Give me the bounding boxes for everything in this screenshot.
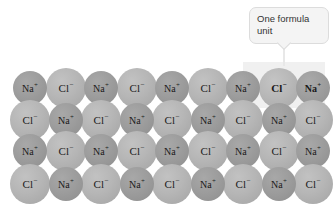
sodium-ion: Na+ [49,167,83,201]
ion-label: Cl− [129,145,144,157]
ion-charge: − [283,80,287,89]
ion-label: Na+ [235,83,251,94]
ion-label: Cl− [200,145,215,157]
ion-label: Cl− [58,145,73,157]
formula-unit-callout: One formula unit [249,7,329,44]
chloride-ion: Cl− [152,164,192,204]
ion-label: Na+ [305,83,322,94]
ion-label: Na+ [164,146,180,157]
callout-label: One formula unit [257,13,309,36]
ion-charge: − [246,112,250,121]
sodium-ion: Na+ [296,134,330,168]
ion-charge: − [211,80,215,89]
ion-charge: − [104,176,108,185]
chloride-ion: Cl− [293,164,333,204]
ion-label: Cl− [129,82,144,94]
ion-label: Na+ [93,83,109,94]
ion-charge: + [34,144,38,151]
ion-charge: + [105,144,109,151]
sodium-ion: Na+ [191,167,225,201]
ion-label: Na+ [271,115,287,126]
chloride-ion: Cl− [117,131,157,171]
ion-label: Na+ [22,146,38,157]
ion-charge: − [140,143,144,152]
ion-charge: + [70,113,74,120]
ion-charge: + [176,81,180,88]
ion-label: Na+ [305,146,321,157]
ion-charge: + [317,144,321,151]
ion-charge: − [33,176,37,185]
ion-label: Na+ [235,146,251,157]
ion-charge: + [34,81,38,88]
ion-label: Cl− [164,178,179,190]
ion-charge: + [247,81,251,88]
ion-charge: + [141,113,145,120]
ion-charge: + [317,81,321,88]
ion-label: Na+ [58,179,74,190]
chloride-ion: Cl− [188,131,228,171]
ion-label: Na+ [164,83,180,94]
ion-label: Cl− [93,178,108,190]
ion-charge: + [105,81,109,88]
ion-label: Na+ [129,115,145,126]
ion-charge: − [246,176,250,185]
ion-charge: − [104,112,108,121]
ion-label: Cl− [22,178,37,190]
ion-charge: − [282,143,286,152]
ion-label: Cl− [271,82,287,94]
ion-label: Na+ [200,115,216,126]
chloride-ion: Cl− [259,68,299,108]
ion-label: Cl− [305,178,320,190]
sodium-ion: Na+ [262,167,296,201]
ion-charge: + [247,144,251,151]
ion-label: Na+ [22,83,38,94]
ion-label: Cl− [93,114,108,126]
ion-charge: − [33,112,37,121]
ion-label: Cl− [235,114,250,126]
chloride-ion: Cl− [188,68,228,108]
ion-charge: + [141,177,145,184]
ion-label: Cl− [164,114,179,126]
ion-charge: − [69,80,73,89]
ion-label: Na+ [271,179,287,190]
sodium-ion: Na+ [155,134,189,168]
ion-label: Cl− [22,114,37,126]
ion-charge: − [211,143,215,152]
sodium-ion: Na+ [13,134,47,168]
ion-charge: + [212,113,216,120]
sodium-ion: Na+ [120,167,154,201]
ion-charge: − [140,80,144,89]
ion-label: Na+ [200,179,216,190]
ion-label: Cl− [305,114,320,126]
chloride-ion: Cl− [10,164,50,204]
ion-label: Na+ [58,115,74,126]
ion-charge: − [175,176,179,185]
ion-charge: + [283,113,287,120]
ion-label: Na+ [129,179,145,190]
sodium-ion: Na+ [226,134,260,168]
ion-charge: − [316,176,320,185]
ion-charge: − [69,143,73,152]
ion-charge: + [70,177,74,184]
chloride-ion: Cl− [259,131,299,171]
chloride-ion: Cl− [117,68,157,108]
sodium-ion: Na+ [84,134,118,168]
ion-label: Na+ [93,146,109,157]
chloride-ion: Cl− [46,68,86,108]
ion-label: Cl− [271,145,286,157]
chloride-ion: Cl− [46,131,86,171]
ion-charge: + [176,144,180,151]
ion-label: Cl− [235,178,250,190]
ion-charge: + [212,177,216,184]
ion-charge: − [316,112,320,121]
ion-charge: + [283,177,287,184]
ion-charge: − [175,112,179,121]
nacl-lattice-figure: One formula unit Na+Cl−Na+Cl−Na+Cl−Na+Cl… [0,0,336,215]
chloride-ion: Cl− [223,164,263,204]
ion-label: Cl− [200,82,215,94]
chloride-ion: Cl− [81,164,121,204]
ion-label: Cl− [58,82,73,94]
